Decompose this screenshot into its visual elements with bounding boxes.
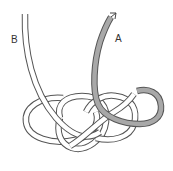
rope-end-b (25, 14, 100, 136)
label-a: A (115, 33, 122, 44)
label-b: B (11, 34, 18, 45)
knot-diagram: .ro { fill:none; stroke:#555; stroke-wid… (0, 0, 173, 171)
